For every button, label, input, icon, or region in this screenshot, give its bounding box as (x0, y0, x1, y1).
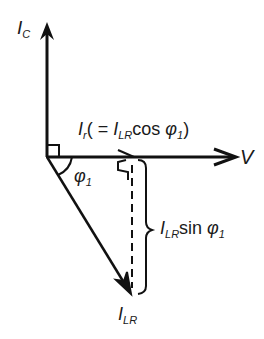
v-label: V (240, 146, 253, 169)
ir-label-sub: r (83, 129, 87, 141)
phi1-main: φ (74, 166, 86, 186)
phi1-sub: 1 (86, 176, 92, 188)
phasor-diagram (0, 0, 264, 339)
ir-paren-close: ) (183, 119, 189, 139)
phi1-arc (58, 157, 72, 175)
ir-func: cos (132, 119, 160, 139)
ilr-sin-phi-sub: 1 (219, 228, 225, 240)
ir-phi: φ (165, 119, 177, 139)
ilr-label: ILR (118, 304, 137, 325)
ilr-sin-i-sub: LR (165, 228, 179, 240)
ilr-label-sub: LR (123, 314, 137, 326)
ir-paren-open: ( = (87, 119, 114, 139)
ilr-sin-func: sin (179, 218, 202, 238)
ic-label: IC (17, 17, 30, 39)
projection-bracket (118, 160, 128, 180)
ir-i-sub: LR (118, 129, 132, 141)
ir-label: Ir( = ILRcos φ1) (78, 119, 189, 140)
ilr-sin-label: ILRsin φ1 (160, 218, 225, 239)
phi1-label: φ1 (74, 166, 92, 187)
curly-brace (138, 160, 152, 294)
right-angle-marker (47, 145, 59, 157)
ic-label-sub: C (22, 28, 30, 40)
ir-phi-sub: 1 (177, 129, 183, 141)
ilr-sin-phi: φ (207, 218, 219, 238)
